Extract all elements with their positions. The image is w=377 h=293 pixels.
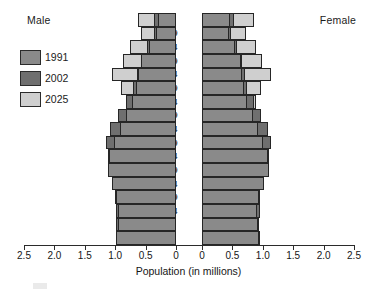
- pyramid-row-male-40-44: [24, 122, 176, 136]
- bar-female-1991-20-24: [202, 177, 264, 191]
- pyramid-row-female-5-9: [202, 218, 354, 232]
- bar-female-1991-70-74: [202, 40, 235, 54]
- pyramid-row-male-35-39: [24, 136, 176, 150]
- x-tick-label-1.0: 1.0: [100, 250, 130, 261]
- bar-male-1991-70-74: [149, 40, 176, 54]
- bar-male-1991-15-19: [116, 190, 176, 204]
- pyramid-row-female-50-54: [202, 95, 354, 109]
- population-pyramid-chart: Male Female 1991 2002 2025 80+75–7970–74…: [0, 0, 377, 293]
- pyramid-row-female-10-14: [202, 204, 354, 218]
- x-tick-label-0.5: 0.5: [217, 250, 247, 261]
- pyramid-row-female-35-39: [202, 136, 354, 150]
- pyramid-row-male-30-34: [24, 149, 176, 163]
- scan-artifact: [33, 283, 47, 289]
- x-tick-label-1.0: 1.0: [248, 250, 278, 261]
- x-tick-label-1.5: 1.5: [70, 250, 100, 261]
- bar-female-1991-65-69: [202, 54, 241, 68]
- bar-female-1991-5-9: [202, 218, 258, 232]
- pyramid-row-male-0-4: [24, 231, 176, 245]
- pyramid-row-male-45-49: [24, 109, 176, 123]
- pyramid-row-female-20-24: [202, 177, 354, 191]
- pyramid-row-female-30-34: [202, 149, 354, 163]
- pyramid-row-female-55-59: [202, 81, 354, 95]
- pyramid-row-female-60-64: [202, 68, 354, 82]
- bar-male-1991-5-9: [118, 218, 176, 232]
- x-tick-label-2.0: 2.0: [309, 250, 339, 261]
- pyramid-row-male-10-14: [24, 204, 176, 218]
- bar-female-1991-40-44: [202, 122, 258, 136]
- bar-male-1991-55-59: [136, 81, 176, 95]
- bar-female-1991-30-34: [202, 149, 268, 163]
- pyramid-row-male-20-24: [24, 177, 176, 191]
- bar-female-1991-10-14: [202, 204, 257, 218]
- bar-female-1991-80+: [202, 13, 230, 27]
- bar-male-1991-75-79: [156, 27, 176, 41]
- pyramid-row-female-0-4: [202, 231, 354, 245]
- pyramid-row-male-55-59: [24, 81, 176, 95]
- x-tick-label-0: 0: [187, 250, 217, 261]
- pyramid-row-male-60-64: [24, 68, 176, 82]
- x-axis-title: Population (in millions): [0, 265, 377, 277]
- pyramid-row-male-70-74: [24, 40, 176, 54]
- pyramid-row-female-15-19: [202, 190, 354, 204]
- bar-male-1991-20-24: [112, 177, 176, 191]
- pyramid-row-female-40-44: [202, 122, 354, 136]
- x-tick-label-1.5: 1.5: [278, 250, 308, 261]
- pyramid-row-male-50-54: [24, 95, 176, 109]
- x-tick-label-2.5: 2.5: [9, 250, 39, 261]
- bar-male-1991-10-14: [118, 204, 176, 218]
- bar-female-1991-25-29: [202, 163, 269, 177]
- bar-male-1991-40-44: [120, 122, 176, 136]
- x-axis-line: [24, 245, 354, 246]
- bar-male-1991-60-64: [138, 68, 176, 82]
- pyramid-row-female-70-74: [202, 40, 354, 54]
- bar-male-1991-35-39: [114, 136, 176, 150]
- bar-female-1991-55-59: [202, 81, 244, 95]
- bar-male-1991-45-49: [126, 109, 176, 123]
- pyramid-row-female-45-49: [202, 109, 354, 123]
- bar-male-1991-0-4: [116, 231, 176, 245]
- pyramid-row-male-5-9: [24, 218, 176, 232]
- bar-male-1991-65-69: [141, 54, 176, 68]
- x-tick-label-2.0: 2.0: [39, 250, 69, 261]
- bar-female-1991-75-79: [202, 27, 229, 41]
- bar-female-1991-35-39: [202, 136, 263, 150]
- male-bars-group: [24, 13, 176, 245]
- pyramid-row-male-15-19: [24, 190, 176, 204]
- pyramid-row-female-25-29: [202, 163, 354, 177]
- bar-female-1991-60-64: [202, 68, 242, 82]
- x-tick-label-2.5: 2.5: [339, 250, 369, 261]
- pyramid-row-male-65-69: [24, 54, 176, 68]
- female-bars-group: [202, 13, 354, 245]
- bar-female-1991-45-49: [202, 109, 253, 123]
- pyramid-row-male-25-29: [24, 163, 176, 177]
- bar-male-1991-30-34: [109, 149, 176, 163]
- pyramid-row-female-65-69: [202, 54, 354, 68]
- bar-male-1991-50-54: [132, 95, 176, 109]
- x-tick-label-0.5: 0.5: [131, 250, 161, 261]
- pyramid-row-female-80+: [202, 13, 354, 27]
- pyramid-row-female-75-79: [202, 27, 354, 41]
- bar-female-1991-50-54: [202, 95, 247, 109]
- pyramid-row-male-80+: [24, 13, 176, 27]
- pyramid-row-male-75-79: [24, 27, 176, 41]
- bar-male-1991-25-29: [108, 163, 176, 177]
- bar-female-1991-0-4: [202, 231, 259, 245]
- bar-female-1991-15-19: [202, 190, 259, 204]
- bar-male-1991-80+: [158, 13, 176, 27]
